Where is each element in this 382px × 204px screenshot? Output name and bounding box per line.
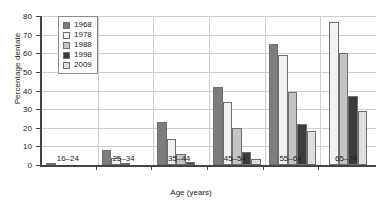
x-axis-tick-label: 16–24 xyxy=(57,154,79,163)
y-axis-tick-label: 20 xyxy=(6,123,32,132)
bar xyxy=(307,131,317,165)
legend-item[interactable]: 2009 xyxy=(63,60,92,70)
x-axis-title: Age (years) xyxy=(0,188,382,197)
y-axis-tick-label: 10 xyxy=(6,142,32,151)
y-axis-tick-mark xyxy=(36,109,40,110)
y-axis-tick-label: 60 xyxy=(6,49,32,58)
y-axis-tick-label: 70 xyxy=(6,30,32,39)
bar xyxy=(157,122,167,165)
x-axis-tick-label: 45–54 xyxy=(224,154,246,163)
x-axis-tick-mark xyxy=(96,166,97,170)
x-axis-tick-mark xyxy=(263,166,264,170)
bar-chart: Percentage dentate 01020304050607080 16–… xyxy=(0,0,382,204)
y-axis-tick-label: 40 xyxy=(6,86,32,95)
x-axis-tick-label: 25–34 xyxy=(112,154,134,163)
legend-item[interactable]: 1968 xyxy=(63,20,92,30)
bar xyxy=(213,87,223,165)
legend-item[interactable]: 1978 xyxy=(63,30,92,40)
legend-swatch-icon xyxy=(63,32,70,39)
x-axis-tick-label: 35–44 xyxy=(168,154,190,163)
legend-item-label: 1978 xyxy=(74,30,92,40)
bar xyxy=(358,111,368,165)
bar xyxy=(251,159,261,165)
y-axis-tick-mark xyxy=(36,91,40,92)
bar xyxy=(339,53,349,165)
x-axis-tick-label: 55–64 xyxy=(279,154,301,163)
legend-item[interactable]: 1998 xyxy=(63,50,92,60)
y-axis-tick-mark xyxy=(36,16,40,17)
x-axis-tick-mark xyxy=(207,166,208,170)
bar xyxy=(121,163,131,165)
y-axis-tick-mark xyxy=(36,72,40,73)
legend-item-label: 1998 xyxy=(74,50,92,60)
legend-swatch-icon xyxy=(63,52,70,59)
y-axis-tick-mark xyxy=(36,165,40,166)
y-axis-tick-label: 30 xyxy=(6,105,32,114)
x-axis-tick-mark xyxy=(151,166,152,170)
legend-item-label: 1988 xyxy=(74,40,92,50)
legend-item-label: 2009 xyxy=(74,60,92,70)
x-axis-tick-label: 65–74 xyxy=(335,154,357,163)
legend-item[interactable]: 1988 xyxy=(63,40,92,50)
y-axis-tick-mark xyxy=(36,146,40,147)
y-axis-tick-mark xyxy=(36,35,40,36)
x-axis-tick-mark xyxy=(318,166,319,170)
bar xyxy=(269,44,279,165)
bar xyxy=(102,150,112,165)
legend-swatch-icon xyxy=(63,42,70,49)
y-axis-tick-label: 80 xyxy=(6,12,32,21)
legend: 19681978198819982009 xyxy=(58,16,98,74)
bar xyxy=(329,22,339,165)
y-axis-tick-mark xyxy=(36,128,40,129)
legend-item-label: 1968 xyxy=(74,20,92,30)
y-axis-tick-mark xyxy=(36,53,40,54)
legend-swatch-icon xyxy=(63,22,70,29)
legend-swatch-icon xyxy=(63,62,70,69)
y-axis-tick-label: 50 xyxy=(6,67,32,76)
y-axis-tick-label: 0 xyxy=(6,161,32,170)
bar xyxy=(278,55,288,165)
bar xyxy=(46,163,56,165)
